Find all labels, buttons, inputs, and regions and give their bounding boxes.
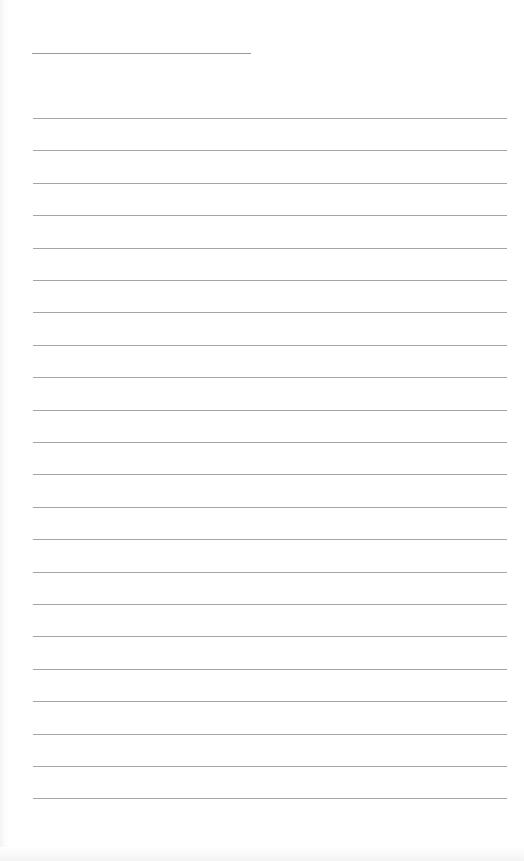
ruled-line [33, 248, 507, 249]
ruled-line [33, 345, 507, 346]
ruled-line [33, 539, 507, 540]
ruled-line [33, 572, 507, 573]
ruled-line [33, 377, 507, 378]
ruled-line [33, 183, 507, 184]
ruled-line [33, 604, 507, 605]
ruled-line [33, 280, 507, 281]
lined-page [0, 0, 524, 861]
title-line [32, 53, 251, 54]
ruled-line [33, 215, 507, 216]
ruled-line [33, 701, 507, 702]
ruled-line [33, 410, 507, 411]
ruled-line [33, 507, 507, 508]
ruled-line [33, 669, 507, 670]
ruled-line [33, 150, 507, 151]
ruled-line [33, 734, 507, 735]
ruled-line [33, 442, 507, 443]
ruled-line [33, 118, 507, 119]
ruled-line [33, 312, 507, 313]
ruled-line [33, 766, 507, 767]
ruled-line [33, 636, 507, 637]
ruled-line [33, 798, 507, 799]
ruled-line [33, 474, 507, 475]
